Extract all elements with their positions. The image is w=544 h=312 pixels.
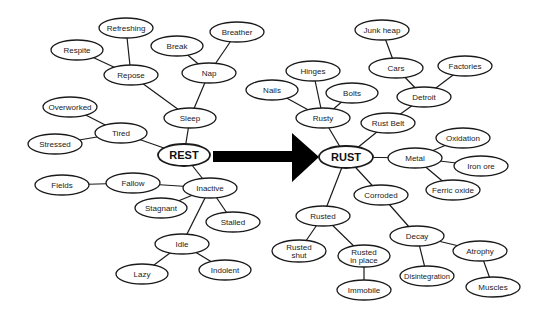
node-refreshing: Refreshing [99,18,153,38]
node-rust: RUST [319,146,373,168]
node-rusted: Rusted [296,206,350,226]
node-stagnant: Stagnant [135,198,187,218]
mind-map-diagram: RESTSleepReposeRefreshingRespiteNapBreak… [0,0,544,312]
node-label: REST [169,149,199,161]
node-corroded: Corroded [354,185,408,205]
node-label: Breather [222,28,253,37]
node-label: Ferric oxide [432,186,474,195]
node-label: Hinges [301,67,326,76]
node-breather: Breather [210,22,264,42]
node-label: Stalled [221,218,245,227]
node-indolent: Indolent [199,260,251,280]
node-label: Stressed [39,140,71,149]
node-idle: Idle [155,234,209,254]
node-label: Muscles [478,283,507,292]
node-overworked: Overworked [43,97,97,117]
node-label: Detroit [412,93,436,102]
node-bolts: Bolts [326,83,378,103]
node-rust-belt: Rust Belt [361,113,415,133]
node-label: Sleep [180,114,201,123]
node-nails: Nails [246,80,298,100]
node-immobile: Immobile [337,280,391,300]
node-label: Inactive [196,184,224,193]
node-junk-heap: Junk heap [355,20,409,40]
node-label: Indolent [211,266,240,275]
node-label: Stagnant [145,204,178,213]
node-label: Rusted [310,212,335,221]
node-ferric-oxide: Ferric oxide [426,180,480,200]
node-label: Rustedin place [350,248,378,265]
node-inactive: Inactive [183,178,237,198]
node-label: Factories [449,62,482,71]
node-label: Iron ore [467,162,495,171]
node-cars: Cars [369,58,423,78]
node-rusted-in-place: Rustedin place [338,245,390,267]
node-iron-ore: Iron ore [454,156,508,176]
node-disintegration: Disintegration [400,266,454,286]
node-label: Nap [202,69,217,78]
node-label: Disintegration [404,272,450,281]
node-rusted-shut: Rustedshut [272,240,326,262]
node-label: Overworked [48,103,91,112]
node-rest: REST [158,144,210,166]
node-label: Nails [263,86,281,95]
node-lazy: Lazy [116,264,168,284]
node-label: Idle [176,240,189,249]
node-label: Oxidation [446,134,480,143]
node-tired: Tired [95,123,147,143]
node-label: Rusty [313,114,333,123]
node-rusty: Rusty [296,108,350,128]
node-detroit: Detroit [397,87,451,107]
node-repose: Repose [104,65,158,85]
node-label: Immobile [348,286,381,295]
node-metal: Metal [388,148,442,168]
node-atrophy: Atrophy [453,241,507,261]
node-nap: Nap [182,63,236,83]
node-stalled: Stalled [206,212,260,232]
node-label: Junk heap [364,26,401,35]
node-label: Bolts [343,89,361,98]
node-label: Cars [388,64,405,73]
node-factories: Factories [438,56,492,76]
node-label: Rust Belt [372,119,405,128]
node-label: RUST [331,151,361,163]
node-fields: Fields [35,175,89,195]
arrow-shaft [213,151,293,162]
node-label: Metal [405,154,425,163]
node-label: Break [167,42,189,51]
node-label: Fields [51,181,72,190]
node-respite: Respite [51,40,103,60]
node-break: Break [151,36,203,56]
node-label: Respite [63,46,91,55]
node-label: Tired [112,129,130,138]
node-fallow: Fallow [106,173,160,193]
node-label: Refreshing [107,24,146,33]
node-sleep: Sleep [164,108,216,128]
node-label: Corroded [364,191,397,200]
node-decay: Decay [390,226,444,246]
node-label: Decay [406,232,429,241]
node-oxidation: Oxidation [436,128,490,148]
node-hinges: Hinges [286,61,340,81]
node-label: Atrophy [466,247,494,256]
node-label: Fallow [121,179,144,188]
node-muscles: Muscles [466,277,520,297]
node-label: Repose [117,71,145,80]
node-label: Lazy [134,270,151,279]
node-stressed: Stressed [28,134,82,154]
